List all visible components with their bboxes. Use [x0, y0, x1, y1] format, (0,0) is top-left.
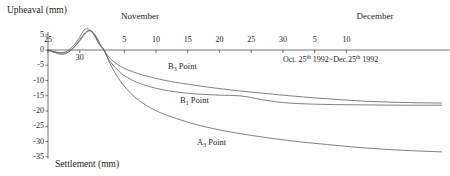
- curve-b3-point: [48, 30, 442, 103]
- plot-area: [0, 0, 450, 176]
- curve-b1-point: [48, 31, 442, 105]
- axis-lines: [46, 32, 450, 159]
- curve-a3-point: [48, 29, 442, 152]
- data-curves: [48, 29, 442, 152]
- chart-container: Upheaval (mm) Settlement (mm) November D…: [0, 0, 450, 176]
